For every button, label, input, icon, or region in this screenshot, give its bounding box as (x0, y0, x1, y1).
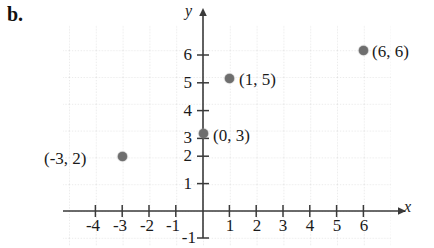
data-point-0-3 (199, 129, 208, 138)
data-point-1-5 (225, 74, 234, 83)
data-point-label--3-2: (-3, 2) (44, 149, 86, 169)
data-point-label-1-5: (1, 5) (239, 70, 276, 90)
x-tick-label-1: 1 (219, 216, 241, 236)
y-tick-label-5: 5 (176, 73, 192, 93)
coordinate-plane-figure: b. (0, 0, 434, 248)
x-tick-label--3: -3 (109, 216, 131, 236)
data-point-6-6 (359, 46, 368, 55)
data-point-label-0-3: (0, 3) (213, 126, 250, 146)
data-point-label-6-6: (6, 6) (372, 42, 409, 62)
data-point--3-2 (118, 152, 127, 161)
y-axis-label: y (185, 2, 192, 20)
x-tick-label-4: 4 (299, 216, 321, 236)
y-tick-label-4: 4 (176, 101, 192, 121)
x-tick-label-3: 3 (272, 216, 294, 236)
x-tick-label-2: 2 (246, 216, 268, 236)
y-tick-label--1: -1 (180, 228, 196, 248)
x-tick-label-6: 6 (353, 216, 375, 236)
x-tick-label--4: -4 (82, 216, 104, 236)
y-tick-label-6: 6 (176, 45, 192, 65)
y-tick-label-3: 3 (176, 128, 192, 148)
y-tick-label-1: 1 (176, 174, 192, 194)
scatter-plot: y x -4 -3 -2 -1 1 2 3 4 5 6 6 5 4 3 2 1 … (0, 0, 434, 248)
y-tick-label-2: 2 (176, 146, 192, 166)
x-tick-label--2: -2 (136, 216, 158, 236)
plot-svg (0, 0, 434, 248)
x-tick-label-5: 5 (326, 216, 348, 236)
x-axis-label: x (404, 198, 411, 216)
